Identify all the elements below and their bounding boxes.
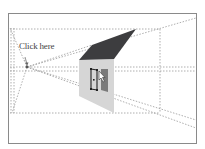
click-here-label: Click here [19,41,54,51]
perspective-grid-canvas[interactable] [0,0,205,149]
